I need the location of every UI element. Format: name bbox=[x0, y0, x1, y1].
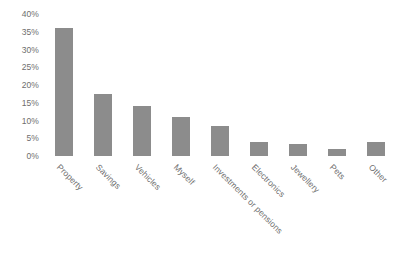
y-axis: 40%35%30%25%20%15%10%5%0% bbox=[0, 0, 44, 170]
x-label-slot: Other bbox=[357, 158, 396, 253]
bar[interactable] bbox=[94, 94, 112, 156]
bar[interactable] bbox=[133, 106, 151, 156]
x-label-slot: Jewellery bbox=[279, 158, 318, 253]
x-axis-tick-label: Pets bbox=[328, 162, 347, 181]
bar-slot bbox=[122, 14, 161, 156]
bar[interactable] bbox=[328, 149, 346, 156]
y-axis-tick-label: 0% bbox=[27, 151, 40, 161]
bar-chart: 40%35%30%25%20%15%10%5%0% PropertySaving… bbox=[0, 0, 409, 255]
bar[interactable] bbox=[289, 144, 307, 156]
bar[interactable] bbox=[172, 117, 190, 156]
bar-slot bbox=[200, 14, 239, 156]
x-axis-tick-label: Savings bbox=[94, 162, 123, 191]
bar[interactable] bbox=[250, 142, 268, 156]
bar-slot bbox=[44, 14, 83, 156]
y-axis-tick-label: 20% bbox=[22, 80, 39, 90]
bar[interactable] bbox=[367, 142, 385, 156]
y-axis-tick-label: 25% bbox=[22, 62, 39, 72]
y-axis-tick-label: 35% bbox=[22, 27, 39, 37]
bar-slot bbox=[240, 14, 279, 156]
x-axis: PropertySavingsVehiclesMyselfInvestments… bbox=[44, 158, 396, 253]
bar-slot bbox=[83, 14, 122, 156]
y-axis-tick-label: 30% bbox=[22, 45, 39, 55]
y-axis-tick-label: 40% bbox=[22, 9, 39, 19]
bar[interactable] bbox=[211, 126, 229, 156]
x-label-slot: Pets bbox=[318, 158, 357, 253]
bar[interactable] bbox=[55, 28, 73, 156]
x-axis-tick-label: Vehicles bbox=[133, 162, 163, 192]
x-axis-tick-label: Other bbox=[367, 162, 389, 184]
x-label-slot: Myself bbox=[161, 158, 200, 253]
bar-slot bbox=[357, 14, 396, 156]
x-label-slot: Property bbox=[44, 158, 83, 253]
bar-slot bbox=[161, 14, 200, 156]
x-label-slot: Electronics bbox=[240, 158, 279, 253]
bar-slot bbox=[279, 14, 318, 156]
y-axis-tick-label: 5% bbox=[27, 133, 40, 143]
plot-area bbox=[44, 14, 396, 156]
x-label-slot: Savings bbox=[83, 158, 122, 253]
x-label-slot: Investments or pensions bbox=[200, 158, 239, 253]
y-axis-tick-label: 10% bbox=[22, 116, 39, 126]
x-axis-tick-label: Myself bbox=[172, 162, 197, 187]
x-label-slot: Vehicles bbox=[122, 158, 161, 253]
x-axis-tick-label: Property bbox=[54, 162, 84, 192]
bar-slot bbox=[318, 14, 357, 156]
y-axis-tick-label: 15% bbox=[22, 98, 39, 108]
